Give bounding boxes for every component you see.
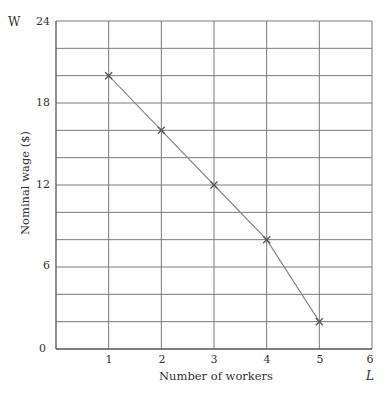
x-tick-labels: 1 2 3 4 5 6 (106, 353, 374, 366)
y-tick-24: 24 (36, 15, 50, 28)
x-axis-symbol: L (365, 369, 374, 383)
x-tick-4: 4 (264, 353, 271, 366)
chart-canvas: W 0 6 12 18 24 1 2 3 4 5 6 Number of wor… (0, 0, 389, 396)
origin-label: 0 (39, 342, 46, 355)
x-tick-2: 2 (159, 353, 166, 366)
x-axis-title: Number of workers (159, 369, 273, 383)
y-tick-12: 12 (36, 178, 50, 191)
x-tick-3: 3 (211, 353, 218, 366)
y-tick-labels: 6 12 18 24 (36, 15, 50, 272)
y-axis-symbol: W (8, 15, 21, 29)
x-tick-5: 5 (317, 353, 324, 366)
y-tick-6: 6 (43, 259, 50, 272)
x-tick-1: 1 (106, 353, 113, 366)
x-tick-6: 6 (367, 353, 374, 366)
y-axis-title: Nominal wage ($) (18, 131, 32, 235)
y-tick-18: 18 (36, 96, 50, 109)
